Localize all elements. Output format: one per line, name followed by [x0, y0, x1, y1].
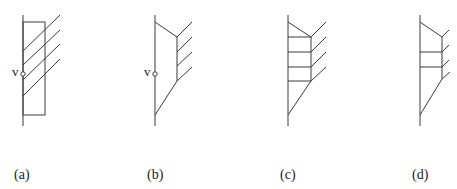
hatch-line [442, 60, 449, 67]
hatch-line [23, 59, 60, 96]
hatch-line [311, 67, 326, 81]
diagram-canvas: v (a) v (b) (c) [0, 0, 457, 189]
hatch-line [311, 52, 326, 67]
hatch-line [23, 30, 60, 65]
hatch-line [311, 22, 326, 37]
hatch-line [177, 67, 192, 81]
panel-c: (c) [280, 15, 326, 183]
vertex-point [21, 72, 25, 76]
top-diagonal [155, 22, 177, 37]
hatch-line [442, 45, 449, 52]
hatch-line [311, 37, 326, 52]
rectangle [23, 22, 45, 115]
bottom-diagonal [288, 81, 311, 115]
panel-a: v (a) [12, 15, 60, 183]
top-diagonal [420, 22, 442, 37]
top-diagonal [288, 22, 311, 37]
panel-label: (a) [14, 167, 30, 183]
hatch-line [23, 15, 60, 51]
hatch-line [177, 52, 192, 66]
hatch-line [442, 72, 450, 79]
vertex-point [153, 72, 157, 76]
panel-b: v (b) [144, 15, 192, 183]
bottom-diagonal [155, 81, 177, 115]
panel-label: (d) [412, 167, 429, 183]
hatch-line [23, 44, 60, 80]
hatch-line [177, 22, 192, 37]
panel-label: (c) [280, 167, 296, 183]
point-label: v [12, 64, 19, 79]
point-label: v [144, 64, 151, 79]
hatch-line [177, 37, 192, 52]
bottom-diagonal [420, 79, 442, 115]
hatch-line [442, 30, 449, 37]
panel-label: (b) [147, 167, 164, 183]
panel-d: (d) [412, 15, 450, 183]
